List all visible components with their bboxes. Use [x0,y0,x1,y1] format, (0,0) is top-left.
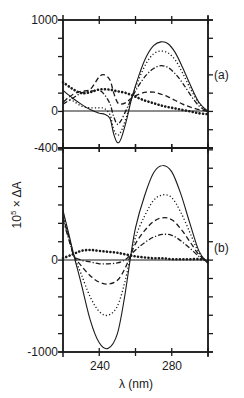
series-circles-b [63,250,208,260]
x-tick-label-280: 280 [162,359,182,373]
x-axis-title: λ (nm) [119,377,153,391]
y-axis-title-rest: × ΔA [10,182,24,211]
y-tick-label-top-1000: 1000 [31,13,58,27]
axis-ticks [58,15,213,357]
panel-b-curves [63,165,208,348]
y-tick-label-top-minus400: -400 [34,141,58,155]
panel-a-label: (a) [214,68,229,82]
chart-canvas: 1000 0 -400 0 -1000 240 280 λ (nm) 105 ×… [0,0,244,398]
panel-a-curves [63,42,208,143]
y-tick-label-bottom-0: 0 [51,253,58,267]
x-tick-label-240: 240 [90,359,110,373]
y-tick-label-bottom-minus1000: -1000 [27,345,58,359]
y-tick-label-top-0: 0 [51,104,58,118]
y-axis-title: 105 × ΔA [9,182,24,229]
panel-b-label: (b) [214,241,229,255]
cd-spectra-figure: 1000 0 -400 0 -1000 240 280 λ (nm) 105 ×… [0,0,244,398]
y-axis-title-base: 10 [10,215,24,229]
